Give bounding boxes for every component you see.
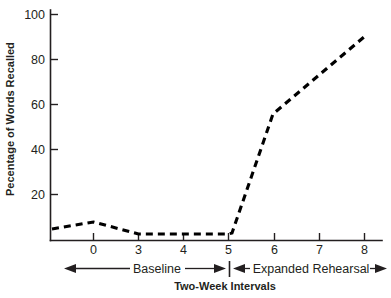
- x-tick-label-3: 3: [135, 243, 142, 257]
- y-tick-label-100: 100: [24, 8, 45, 22]
- recall-line-chart: 100 80 60 40 20 0 3 4 5 6 7 8: [0, 0, 391, 298]
- x-axis-tick-labels: 0 3 4 5 6 7 8: [90, 243, 368, 257]
- y-axis-ticks: [51, 15, 59, 195]
- x-tick-label-5: 5: [225, 243, 232, 257]
- y-tick-label-20: 20: [31, 188, 45, 202]
- x-tick-label-7: 7: [316, 243, 323, 257]
- rehearsal-left-arrow-icon: [233, 264, 245, 273]
- y-tick-label-40: 40: [31, 143, 45, 157]
- phase-annotations: Baseline Expanded Rehearsal: [64, 261, 387, 277]
- recall-data-line: [52, 37, 364, 234]
- x-axis-title: Two-Week Intervals: [174, 280, 276, 292]
- x-tick-label-6: 6: [271, 243, 278, 257]
- x-tick-label-0: 0: [90, 243, 97, 257]
- y-tick-label-60: 60: [31, 98, 45, 112]
- y-axis-tick-labels: 100 80 60 40 20: [24, 8, 45, 202]
- rehearsal-phase-label: Expanded Rehearsal: [253, 262, 370, 276]
- x-tick-label-8: 8: [361, 243, 368, 257]
- baseline-left-arrow-icon: [64, 264, 76, 273]
- x-tick-label-4: 4: [180, 243, 187, 257]
- chart-figure: 100 80 60 40 20 0 3 4 5 6 7 8: [0, 0, 391, 298]
- baseline-phase-label: Baseline: [133, 262, 181, 276]
- y-axis-title: Pecentage of Words Recalled: [4, 42, 16, 196]
- y-tick-label-80: 80: [31, 53, 45, 67]
- rehearsal-right-arrow-icon: [375, 264, 387, 273]
- baseline-right-arrow-icon: [214, 264, 226, 273]
